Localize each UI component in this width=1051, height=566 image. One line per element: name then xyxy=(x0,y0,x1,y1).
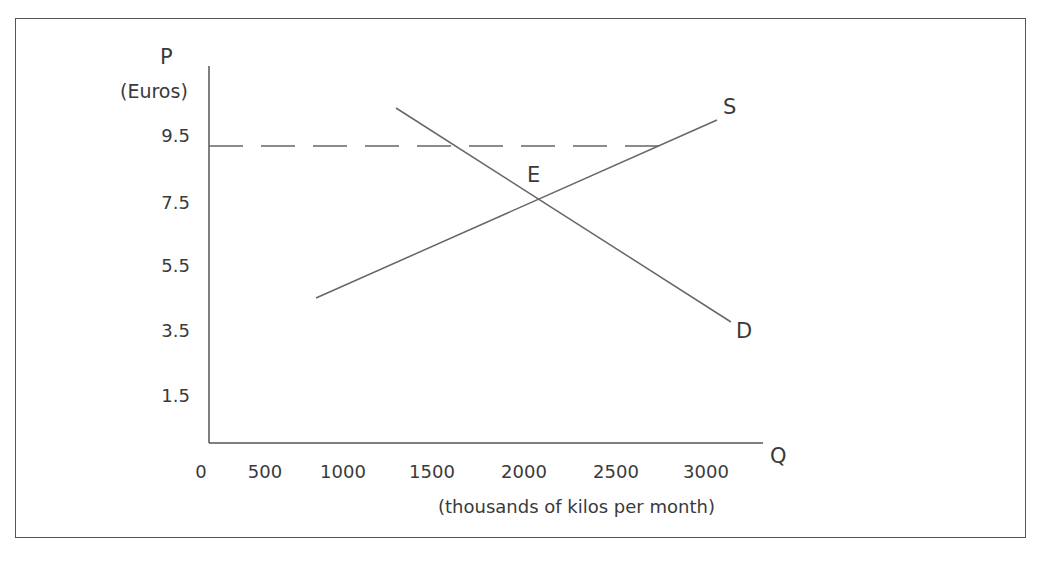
x-axis-unit: (thousands of kilos per month) xyxy=(438,496,715,517)
x-tick-labels: 0 500 1000 1500 2000 2500 3000 xyxy=(195,461,729,482)
y-tick: 1.5 xyxy=(161,385,190,406)
x-tick: 1000 xyxy=(320,461,366,482)
y-axis-label: P xyxy=(160,45,173,69)
supply-label: S xyxy=(723,95,736,119)
y-tick-labels: 9.5 7.5 5.5 3.5 1.5 xyxy=(161,125,190,406)
equilibrium-label: E xyxy=(527,163,540,187)
x-tick: 0 xyxy=(195,461,206,482)
y-tick: 3.5 xyxy=(161,320,190,341)
x-tick: 500 xyxy=(248,461,282,482)
y-tick: 5.5 xyxy=(161,255,190,276)
demand-curve xyxy=(396,108,731,322)
x-tick: 1500 xyxy=(409,461,455,482)
x-axis-label: Q xyxy=(770,444,787,468)
y-tick: 7.5 xyxy=(161,192,190,213)
y-tick: 9.5 xyxy=(161,125,190,146)
x-tick: 2500 xyxy=(593,461,639,482)
supply-demand-chart: P (Euros) Q (thousands of kilos per mont… xyxy=(0,0,1051,566)
x-tick: 3000 xyxy=(683,461,729,482)
demand-label: D xyxy=(736,319,752,343)
x-tick: 2000 xyxy=(501,461,547,482)
y-axis-unit: (Euros) xyxy=(120,80,188,102)
